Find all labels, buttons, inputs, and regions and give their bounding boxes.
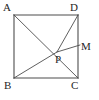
- segment-PB-line: [14, 52, 57, 78]
- interior-segments: [14, 15, 80, 78]
- vertex-label-b: B: [4, 80, 11, 91]
- vertex-label-d: D: [70, 2, 78, 13]
- diagonal-AC-line: [14, 15, 78, 78]
- vertex-label-c: C: [71, 80, 78, 91]
- geometry-figure: A D M P B C: [0, 0, 99, 100]
- point-label-p: P: [55, 54, 61, 65]
- point-label-m: M: [81, 41, 91, 52]
- vertex-label-a: A: [3, 2, 11, 13]
